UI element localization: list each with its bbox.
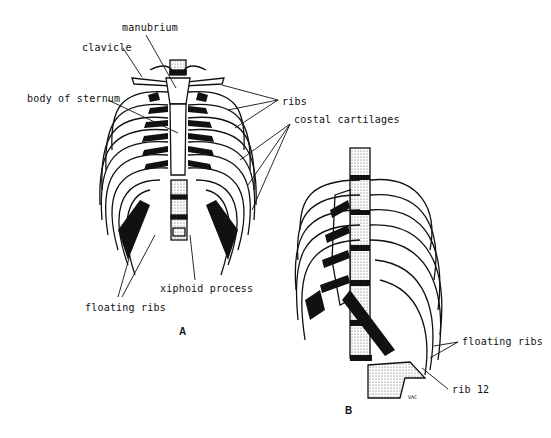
label-floating-ribs-b: floating ribs (462, 336, 543, 347)
label-rib-12: rib 12 (452, 384, 489, 395)
label-floating-ribs-a: floating ribs (85, 302, 166, 313)
label-costal-cartilages: costal cartilages (294, 114, 400, 125)
rib-cage-illustrations (0, 0, 551, 438)
figure-label-b: B (345, 405, 352, 416)
figure-b-rib-cage (295, 148, 442, 398)
label-ribs: ribs (282, 96, 307, 107)
artist-signature: VAC (408, 394, 417, 400)
figure-a-rib-cage (100, 60, 256, 275)
figure-label-a: A (179, 326, 186, 337)
label-body-of-sternum: body of sternum (27, 93, 120, 104)
label-manubrium: manubrium (122, 22, 178, 33)
label-xiphoid-process: xiphoid process (160, 283, 253, 294)
label-clavicle: clavicle (82, 42, 132, 53)
